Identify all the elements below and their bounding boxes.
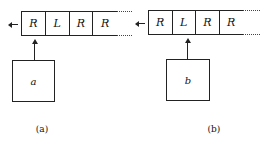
- head-pointer-arrow-icon: [187, 42, 188, 59]
- tape-cell: R: [70, 12, 94, 35]
- tape-cell: R: [220, 11, 243, 34]
- tape-cell: L: [173, 11, 197, 34]
- head-pointer-arrow-icon: [34, 43, 35, 60]
- tape-cell: R: [196, 11, 220, 34]
- control-box: a: [12, 60, 55, 102]
- left-arrow-icon: [11, 24, 18, 25]
- tape: R L R R: [21, 11, 117, 36]
- panel-b: R L R R b (b): [132, 0, 264, 143]
- tape-continuation-top: [117, 11, 132, 12]
- tape-cell: L: [46, 12, 70, 35]
- tape-cell: R: [93, 12, 117, 35]
- control-box: b: [166, 59, 210, 101]
- tape-continuation-bottom: [243, 34, 260, 35]
- panel-a: R L R R a (a): [0, 0, 132, 143]
- left-arrow-icon: [138, 23, 145, 24]
- caption: (b): [208, 124, 221, 134]
- caption: (a): [36, 124, 48, 134]
- tape-continuation-bottom: [117, 35, 132, 36]
- tape: R L R R: [148, 10, 243, 35]
- box-label: b: [185, 75, 191, 86]
- tape-cell: R: [149, 11, 173, 34]
- tape-continuation-top: [243, 10, 260, 11]
- box-label: a: [31, 76, 37, 87]
- tape-cell: R: [22, 12, 46, 35]
